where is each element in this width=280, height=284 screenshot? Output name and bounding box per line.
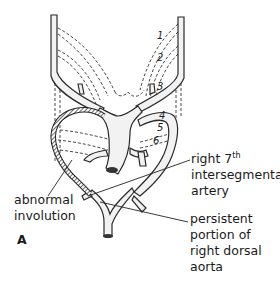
arch-number-6: 6 xyxy=(153,135,159,146)
arch-number-5: 5 xyxy=(157,122,163,133)
label-abnormal-involution: abnormal involution xyxy=(14,192,76,224)
arch-number-3: 3 xyxy=(157,81,163,92)
arch-number-4: 4 xyxy=(159,110,165,121)
label-persistent-right-dorsal-aorta: persistent portion of right dorsal aorta xyxy=(190,211,262,275)
panel-letter: A xyxy=(17,232,27,248)
trunk-opening xyxy=(106,167,118,173)
aortic-arch-diagram: 1 2 3 4 5 6 right 7th intersegmental art… xyxy=(0,0,280,284)
arch-number-2: 2 xyxy=(157,52,163,63)
arch-number-1: 1 xyxy=(157,30,163,41)
label-right-7th-intersegmental-artery: right 7th intersegmental artery xyxy=(191,148,280,199)
